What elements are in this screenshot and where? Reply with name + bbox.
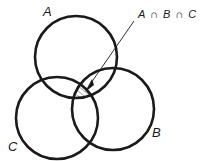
set-c-circle (16, 77, 98, 159)
set-b-label: B (152, 126, 161, 139)
venn-diagram: A B C A ∩ B ∩ C (0, 0, 205, 161)
set-b-circle (72, 68, 154, 150)
intersection-annotation: A ∩ B ∩ C (138, 9, 197, 20)
set-c-label: C (8, 140, 17, 153)
venn-svg (0, 0, 205, 161)
set-a-circle (35, 16, 117, 98)
set-a-label: A (43, 5, 52, 18)
